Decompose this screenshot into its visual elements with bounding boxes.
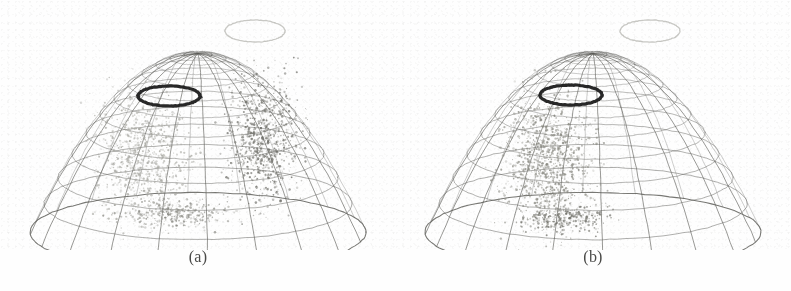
scatter-point xyxy=(252,99,253,100)
scatter-point xyxy=(235,150,238,153)
scatter-point xyxy=(241,223,243,225)
scatter-point xyxy=(568,120,569,121)
scatter-point xyxy=(120,197,121,198)
scatter-point xyxy=(173,210,174,211)
scatter-point xyxy=(156,169,158,171)
scatter-point xyxy=(559,214,560,215)
scatter-point xyxy=(271,119,272,120)
scatter-point xyxy=(106,186,108,188)
scatter-point xyxy=(534,115,536,117)
scatter-point xyxy=(557,169,558,170)
scatter-point xyxy=(571,163,573,165)
scatter-point xyxy=(565,141,566,142)
scatter-point xyxy=(126,165,128,167)
scatter-point xyxy=(594,235,596,237)
scatter-point xyxy=(533,182,534,183)
scatter-point xyxy=(254,201,257,204)
scatter-point xyxy=(608,205,610,207)
scatter-point xyxy=(229,150,230,151)
scatter-point xyxy=(579,178,581,180)
scatter-point xyxy=(241,145,243,147)
scatter-point xyxy=(145,218,147,220)
scatter-point xyxy=(556,199,558,201)
scatter-point xyxy=(262,130,263,131)
scatter-point xyxy=(125,129,126,130)
scatter-point xyxy=(256,124,258,126)
scatter-point xyxy=(145,165,147,167)
scatter-point xyxy=(254,128,255,129)
scatter-point xyxy=(288,98,291,101)
scatter-point xyxy=(94,211,96,213)
scatter-point xyxy=(156,157,158,159)
scatter-point xyxy=(177,209,179,211)
scatter-point xyxy=(126,216,127,217)
scatter-point xyxy=(500,169,502,171)
scatter-point xyxy=(278,113,279,114)
scatter-point xyxy=(269,181,270,182)
scatter-point xyxy=(124,123,127,126)
scatter-point xyxy=(562,220,564,222)
scatter-point xyxy=(131,216,133,218)
scatter-point xyxy=(284,153,285,154)
scatter-point xyxy=(159,200,160,201)
scatter-point xyxy=(300,86,302,88)
scatter-point xyxy=(136,132,138,134)
scatter-point xyxy=(192,200,193,201)
scatter-point xyxy=(264,122,265,123)
scatter-point xyxy=(563,211,564,212)
scatter-point xyxy=(510,186,512,188)
scatter-point xyxy=(556,188,558,190)
scatter-point xyxy=(154,126,155,127)
scatter-point xyxy=(571,177,573,179)
scatter-point xyxy=(150,116,151,117)
scatter-point xyxy=(536,221,538,223)
scatter-point xyxy=(154,208,156,210)
figure-panel-a: (a) xyxy=(1,0,396,291)
scatter-point xyxy=(119,143,121,145)
scatter-point xyxy=(246,108,247,109)
scatter-point xyxy=(601,202,602,203)
scatter-point xyxy=(165,173,167,175)
scatter-point xyxy=(128,182,130,184)
scatter-point xyxy=(146,111,147,112)
scatter-point xyxy=(534,205,536,207)
scatter-point xyxy=(586,195,588,197)
scatter-point xyxy=(126,133,127,134)
scatter-point xyxy=(158,98,160,100)
scatter-point xyxy=(86,139,88,141)
scatter-point xyxy=(231,170,232,171)
scatter-point xyxy=(523,197,525,199)
scatter-point xyxy=(580,202,581,203)
scatter-point xyxy=(544,133,546,135)
scatter-point xyxy=(251,109,253,111)
scatter-point xyxy=(576,207,577,208)
scatter-point xyxy=(558,223,560,225)
scatter-point xyxy=(179,222,182,225)
scatter-point xyxy=(127,135,129,137)
scatter-point xyxy=(521,133,523,135)
scatter-point xyxy=(175,141,177,143)
scatter-point xyxy=(246,125,248,127)
scatter-point xyxy=(541,181,542,182)
scatter-point xyxy=(581,222,583,224)
scatter-point xyxy=(278,124,280,126)
scatter-point xyxy=(239,96,240,97)
scatter-point xyxy=(272,106,275,109)
scatter-point xyxy=(146,205,147,206)
scatter-point xyxy=(151,210,152,211)
scatter-point xyxy=(167,212,168,213)
scatter-point xyxy=(256,142,257,143)
scatter-point xyxy=(533,227,535,229)
scatter-point xyxy=(280,123,282,125)
scatter-point xyxy=(527,192,530,195)
scatter-point xyxy=(237,162,239,164)
scatter-point xyxy=(116,131,118,133)
scatter-point xyxy=(219,153,221,155)
scatter-point xyxy=(587,220,589,222)
scatter-point xyxy=(540,145,541,146)
scatter-point xyxy=(590,214,592,216)
scatter-point xyxy=(532,142,533,143)
scatter-point xyxy=(167,125,169,127)
scatter-point xyxy=(560,111,562,113)
scatter-point xyxy=(575,225,577,227)
